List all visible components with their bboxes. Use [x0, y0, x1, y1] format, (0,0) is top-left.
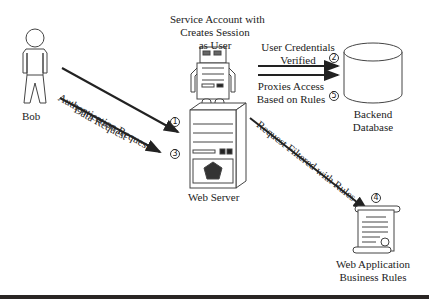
scroll-document-icon: [353, 206, 400, 253]
service-account-label-3: as User: [170, 39, 260, 52]
flow-credentials-label-1: User Credentials: [258, 41, 338, 54]
step-2-marker: 2: [329, 53, 339, 63]
step-5-marker: 5: [329, 91, 339, 101]
step-3-marker: 3: [170, 149, 180, 159]
service-account-label-2: Creates Session: [170, 26, 260, 39]
business-rules-label-2: Business Rules: [333, 271, 413, 284]
step-4-marker: 4: [371, 193, 381, 203]
bottom-border: [0, 295, 429, 299]
flow-credentials-label-2: Verified: [258, 54, 338, 67]
backend-db-label-1: Backend: [348, 108, 398, 121]
robot-service-account-icon: [191, 47, 235, 107]
bob-label: Bob: [22, 110, 40, 123]
backend-db-label-2: Database: [348, 121, 398, 134]
service-account-label-1: Service Account with: [170, 13, 260, 26]
bob-person-icon: [23, 29, 47, 103]
flow-proxies-label-2: Based on Rules: [256, 93, 326, 106]
web-server-label: Web Server: [188, 191, 238, 204]
business-rules-label-1: Web Application: [333, 258, 413, 271]
database-icon: [344, 43, 402, 103]
web-server-icon: [190, 103, 246, 188]
flow-proxies-label-1: Proxies Access: [256, 80, 326, 93]
step-1-marker: 1: [170, 117, 180, 127]
